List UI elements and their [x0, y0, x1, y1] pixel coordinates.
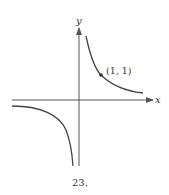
figure-number: 23. — [72, 177, 88, 188]
hyperbola-figure: (1, 1) y x 23. — [0, 0, 169, 195]
curve-lower-left-branch — [12, 106, 73, 166]
point-marker — [99, 73, 103, 77]
y-axis-label: y — [75, 15, 82, 26]
x-axis-label: x — [155, 94, 161, 105]
point-label: (1, 1) — [106, 65, 132, 76]
